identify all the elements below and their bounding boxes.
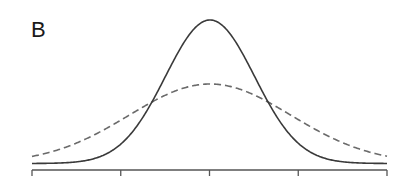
x-axis [32, 170, 387, 176]
dashed-curve [32, 84, 387, 156]
solid-curve [32, 20, 387, 163]
distribution-chart [0, 0, 412, 188]
